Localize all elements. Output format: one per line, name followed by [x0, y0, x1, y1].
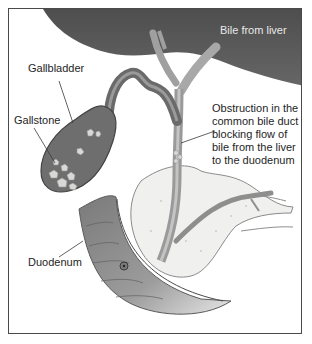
illustration-frame — [8, 8, 302, 334]
label-obstruction: Obstruction in the common bile duct bloc… — [212, 102, 298, 167]
label-duodenum: Duodenum — [28, 256, 82, 269]
pancreas-shape — [131, 166, 293, 277]
label-bile-from-liver: Bile from liver — [220, 24, 287, 37]
duodenum-leader — [59, 241, 83, 257]
obstruction-leader — [181, 131, 215, 143]
anatomy-illustration — [9, 9, 302, 334]
label-gallstone: Gallstone — [14, 114, 60, 127]
label-gallbladder: Gallbladder — [28, 62, 84, 75]
gallbladder-leader — [59, 81, 73, 123]
